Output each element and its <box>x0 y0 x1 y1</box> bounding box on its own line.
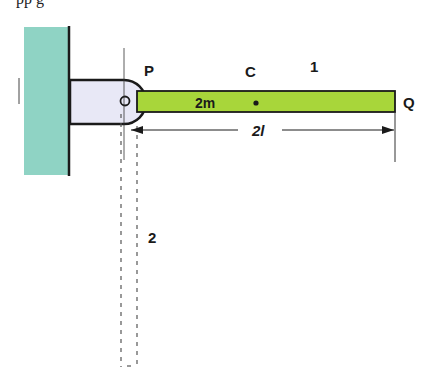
center-of-mass-dot <box>253 100 258 105</box>
rod-position-1 <box>137 91 395 112</box>
cropped-caption-text: pp g <box>16 0 44 8</box>
hinge-bracket <box>70 80 146 124</box>
label-rod-1: 1 <box>310 58 318 75</box>
label-p: P <box>144 62 154 79</box>
label-mass: 2m <box>195 95 215 111</box>
label-length: 2l <box>251 122 265 139</box>
arrowhead-right-icon <box>382 126 394 134</box>
label-c: C <box>245 63 256 80</box>
wall <box>24 27 69 175</box>
label-position-2: 2 <box>148 229 156 246</box>
label-q: Q <box>403 94 415 111</box>
rod-pendulum-diagram: pp g P C 1 Q 2m 2l 2 <box>0 0 430 386</box>
